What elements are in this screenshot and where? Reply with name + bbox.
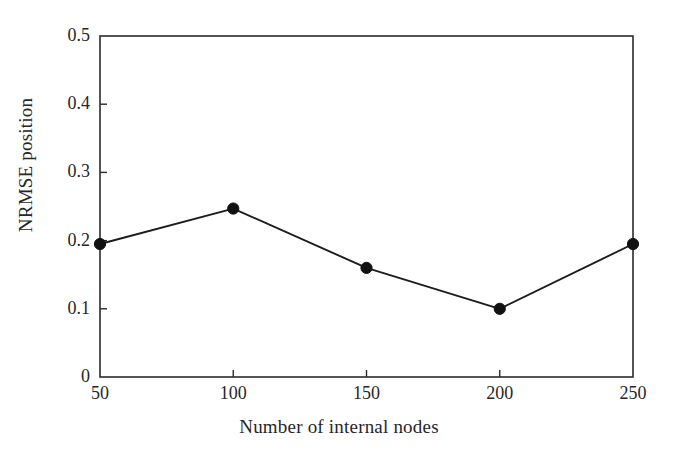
data-point-markers [94, 203, 638, 314]
y-axis-title-wrapper: NRMSE position [15, 75, 45, 255]
data-series [100, 209, 633, 309]
y-tick-label: 0.5 [44, 25, 90, 46]
chart-figure: 00.10.20.30.40.5 50100150200250 NRMSE po… [0, 0, 678, 463]
x-axis-ticks [233, 370, 500, 377]
data-point-marker [228, 203, 239, 214]
data-point-marker [494, 303, 505, 314]
y-tick-label: 0.1 [44, 298, 90, 319]
x-tick-label: 250 [598, 383, 668, 404]
x-tick-label: 150 [332, 383, 402, 404]
series-line-nrmse-position [100, 209, 633, 309]
y-axis-title: NRMSE position [15, 75, 37, 255]
y-tick-label: 0.2 [44, 230, 90, 251]
x-tick-label: 200 [465, 383, 535, 404]
y-tick-label: 0.4 [44, 93, 90, 114]
data-point-marker [627, 238, 638, 249]
y-axis-ticks [100, 104, 107, 309]
x-tick-label: 100 [198, 383, 268, 404]
data-point-marker [361, 262, 372, 273]
data-point-marker [94, 238, 105, 249]
plot-frame [100, 36, 633, 377]
axes-frame [100, 36, 633, 377]
y-tick-label: 0.3 [44, 161, 90, 182]
x-axis-title: Number of internal nodes [0, 416, 678, 438]
x-tick-label: 50 [65, 383, 135, 404]
